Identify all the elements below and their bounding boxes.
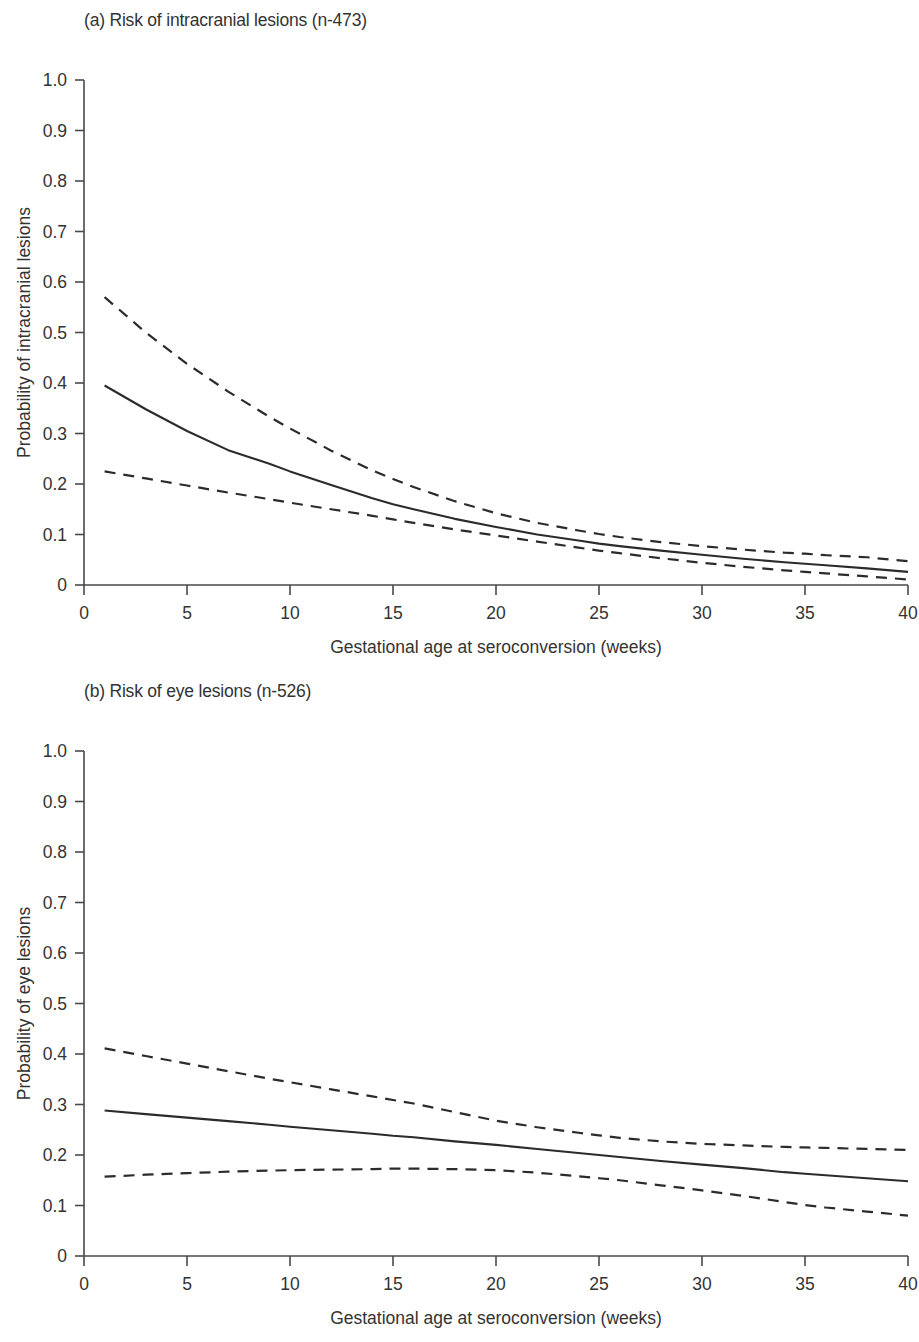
y-axis-tick-label: 0.5 <box>43 994 67 1014</box>
y-axis-tick-label: 0.4 <box>43 1044 68 1064</box>
x-axis-tick-label: 10 <box>280 603 300 623</box>
y-axis-tick-label: 0.2 <box>43 1145 67 1165</box>
panel-a: (a) Risk of intracranial lesions (n-473)… <box>0 0 919 671</box>
y-axis-label: Probability of eye lesions <box>14 906 34 1100</box>
x-axis-tick-label: 25 <box>589 603 608 623</box>
x-axis-tick-label: 30 <box>692 603 712 623</box>
series-line-predicted <box>105 386 908 572</box>
y-axis-tick-label: 0 <box>57 575 67 595</box>
x-axis-tick-label: 0 <box>79 603 89 623</box>
y-axis-tick-label: 0.1 <box>43 1196 67 1216</box>
y-axis-tick-label: 0.6 <box>43 943 67 963</box>
y-axis-tick-label: 1.0 <box>43 741 68 761</box>
y-axis-tick-label: 0.6 <box>43 272 67 292</box>
x-axis-label: Gestational age at seroconversion (weeks… <box>330 1308 662 1328</box>
x-axis-tick-label: 25 <box>589 1274 608 1294</box>
x-axis-tick-label: 15 <box>383 1274 402 1294</box>
y-axis-label: Probability of intracranial lesions <box>14 207 34 458</box>
y-axis-tick-label: 0.2 <box>43 474 67 494</box>
x-axis-tick-label: 5 <box>182 1274 192 1294</box>
y-axis-tick-label: 0.9 <box>43 121 67 141</box>
y-axis-tick-label: 0.5 <box>43 323 67 343</box>
panel-b-plot: 00.10.20.30.40.50.60.70.80.91.0051015202… <box>0 671 919 1342</box>
series-line-confidence-limit <box>105 1169 908 1216</box>
x-axis-tick-label: 15 <box>383 603 402 623</box>
x-axis-tick-label: 10 <box>280 1274 300 1294</box>
figure-root: (a) Risk of intracranial lesions (n-473)… <box>0 0 919 1342</box>
x-axis-tick-label: 30 <box>692 1274 712 1294</box>
y-axis-tick-label: 0.8 <box>43 171 67 191</box>
x-axis-tick-label: 20 <box>486 603 506 623</box>
series-line-confidence-limit <box>105 297 908 561</box>
x-axis-tick-label: 20 <box>486 1274 506 1294</box>
y-axis-tick-label: 0.3 <box>43 424 67 444</box>
y-axis-tick-label: 0.9 <box>43 792 67 812</box>
x-axis-tick-label: 5 <box>182 603 192 623</box>
y-axis-tick-label: 0.1 <box>43 525 67 545</box>
x-axis-tick-label: 40 <box>898 603 918 623</box>
y-axis-tick-label: 0.8 <box>43 842 67 862</box>
y-axis-tick-label: 1.0 <box>43 70 68 90</box>
y-axis-tick-label: 0 <box>57 1246 67 1266</box>
x-axis-tick-label: 35 <box>795 603 814 623</box>
x-axis-label: Gestational age at seroconversion (weeks… <box>330 637 662 657</box>
series-line-confidence-limit <box>105 1048 908 1150</box>
y-axis-tick-label: 0.7 <box>43 893 67 913</box>
panel-b: (b) Risk of eye lesions (n-526) 00.10.20… <box>0 671 919 1342</box>
x-axis-tick-label: 40 <box>898 1274 918 1294</box>
x-axis-tick-label: 35 <box>795 1274 814 1294</box>
y-axis-tick-label: 0.7 <box>43 222 67 242</box>
y-axis-tick-label: 0.4 <box>43 373 68 393</box>
panel-a-plot: 00.10.20.30.40.50.60.70.80.91.0051015202… <box>0 0 919 671</box>
y-axis-tick-label: 0.3 <box>43 1095 67 1115</box>
x-axis-tick-label: 0 <box>79 1274 89 1294</box>
